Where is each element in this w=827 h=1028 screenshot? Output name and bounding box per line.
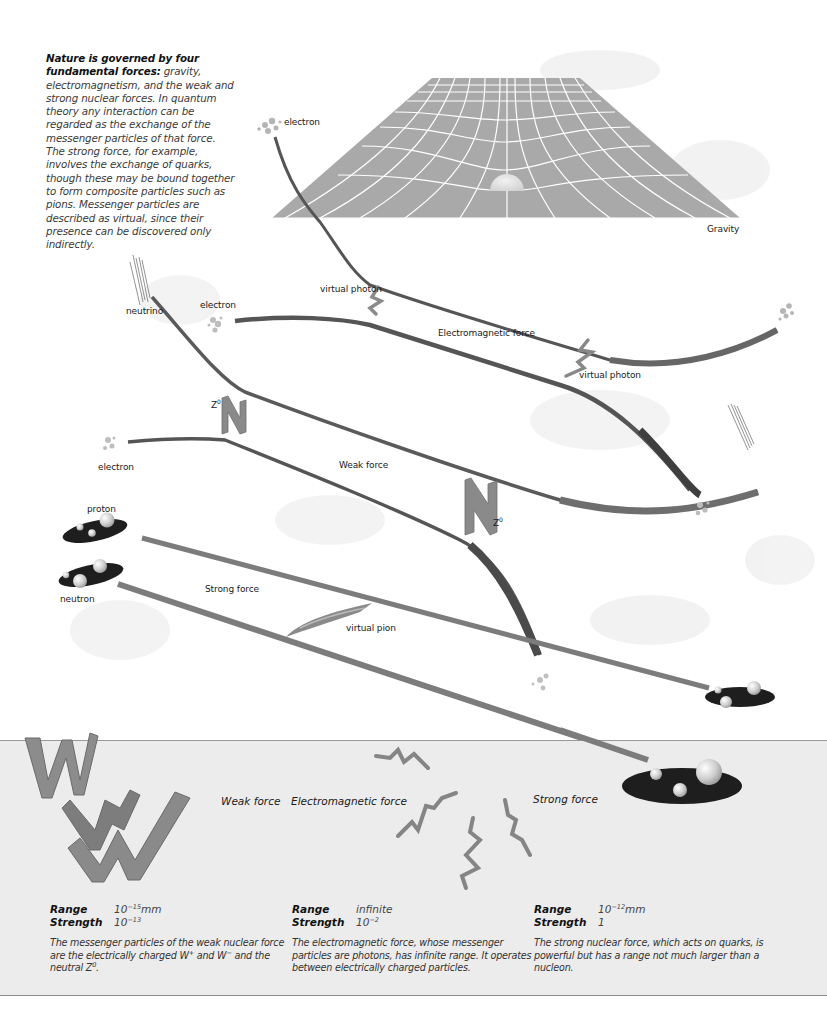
- w-bosons-icon: [25, 733, 190, 882]
- panel-strong-title: Strong force: [533, 793, 598, 805]
- panel-illustrations: [0, 0, 827, 1028]
- panel-weak-title: Weak force: [221, 795, 280, 807]
- weak-description: The messenger particles of the weak nucl…: [50, 937, 300, 975]
- strong-stats: Range10−12mm Strength1: [534, 903, 646, 928]
- em-stats: Rangeinfinite Strength10−2: [292, 903, 393, 928]
- panel-em-title: Electromagnetic force: [291, 795, 407, 807]
- em-description: The electromagnetic force, whose messeng…: [292, 937, 542, 975]
- strong-description: The strong nuclear force, which acts on …: [534, 937, 784, 975]
- photons-icon: [376, 750, 530, 888]
- nucleus-large-icon: [622, 759, 742, 804]
- weak-stats: Range10−15mm Strength10−13: [50, 903, 162, 928]
